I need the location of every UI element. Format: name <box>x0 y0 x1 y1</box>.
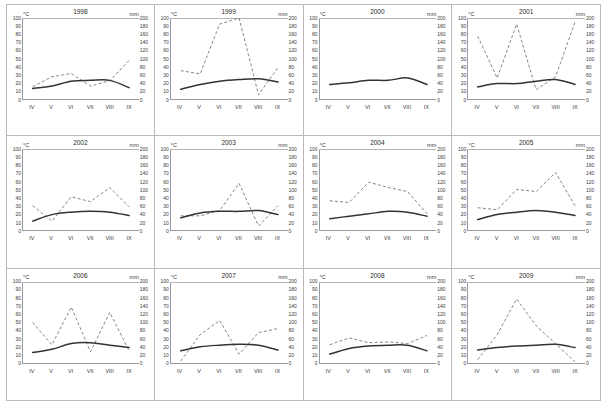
precipitation-tick: 200 <box>437 16 445 21</box>
precipitation-tick: 200 <box>140 279 148 284</box>
precipitation-axis: 200180160140120100806040200 <box>586 16 599 102</box>
month-tick-IX: IX <box>119 102 138 114</box>
plot-frame <box>319 149 437 231</box>
precipitation-tick: 120 <box>586 48 594 53</box>
temperature-tick: 50 <box>163 188 169 193</box>
panel-title-year: 2000 <box>304 7 452 16</box>
precipitation-tick: 200 <box>437 279 445 284</box>
precipitation-tick: 40 <box>437 81 443 86</box>
month-tick-VII: VII <box>229 102 249 114</box>
month-tick-V: V <box>189 102 209 114</box>
precipitation-series <box>478 299 575 362</box>
precipitation-tick: 180 <box>140 24 148 29</box>
climate-panel-2007: °Cmm200710090807060504030201002001801601… <box>155 269 304 401</box>
temperature-tick: 60 <box>312 180 318 185</box>
temperature-series <box>33 80 129 89</box>
precipitation-tick: 120 <box>437 180 445 185</box>
temperature-tick: 10 <box>461 221 467 226</box>
temperature-tick: 40 <box>312 65 318 70</box>
temperature-tick: 10 <box>15 221 21 226</box>
precipitation-axis: 200180160140120100806040200 <box>289 280 302 366</box>
temperature-tick: 30 <box>312 73 318 78</box>
plot-area: 1009080706050403020100200180160140120100… <box>452 16 600 135</box>
precipitation-tick: 60 <box>140 337 146 342</box>
month-tick-IV: IV <box>467 366 487 378</box>
temperature-tick: 30 <box>312 337 318 342</box>
precipitation-tick: 0 <box>289 361 292 366</box>
month-tick-VIII: VIII <box>397 102 417 114</box>
plot-area: 1009080706050403020100200180160140120100… <box>155 16 303 135</box>
precipitation-tick: 0 <box>289 229 292 234</box>
precipitation-series <box>329 183 426 215</box>
month-axis: IVVVIVIIVIIIIX <box>22 102 139 114</box>
temperature-tick: 60 <box>163 48 169 53</box>
precipitation-tick: 40 <box>437 212 443 217</box>
temperature-series <box>329 78 426 85</box>
month-tick-VIII: VIII <box>397 233 417 245</box>
month-tick-VI: VI <box>358 233 378 245</box>
precipitation-tick: 120 <box>289 180 297 185</box>
temperature-tick: 0 <box>18 361 21 366</box>
plot-area: 1009080706050403020100200180160140120100… <box>7 16 154 135</box>
precipitation-tick: 20 <box>289 89 295 94</box>
month-axis: IVVVIVIIVIIIIX <box>170 233 288 245</box>
temperature-series <box>329 212 426 219</box>
temperature-tick: 90 <box>163 287 169 292</box>
precipitation-tick: 40 <box>289 212 295 217</box>
precipitation-tick: 100 <box>289 320 297 325</box>
month-tick-VI: VI <box>507 233 527 245</box>
month-tick-VI: VI <box>358 366 378 378</box>
precipitation-tick: 80 <box>586 65 592 70</box>
temperature-tick: 70 <box>312 40 318 45</box>
climate-panel-2003: °Cmm200310090807060504030201002001801601… <box>155 136 304 268</box>
temperature-tick: 50 <box>15 57 21 62</box>
precipitation-tick: 20 <box>586 89 592 94</box>
precipitation-tick: 200 <box>586 147 594 152</box>
temperature-tick: 50 <box>163 320 169 325</box>
precipitation-series <box>33 307 129 352</box>
precipitation-tick: 100 <box>586 57 594 62</box>
month-tick-VI: VI <box>507 366 527 378</box>
series-canvas <box>171 18 288 99</box>
temperature-tick: 20 <box>15 212 21 217</box>
month-tick-V: V <box>487 233 507 245</box>
temperature-axis: 1009080706050403020100 <box>453 16 466 102</box>
series-canvas <box>23 18 139 99</box>
temperature-axis: 1009080706050403020100 <box>8 147 21 233</box>
temperature-axis: 1009080706050403020100 <box>156 280 169 366</box>
temperature-tick: 60 <box>461 312 467 317</box>
precipitation-tick: 80 <box>289 328 295 333</box>
precipitation-tick: 20 <box>586 353 592 358</box>
temperature-tick: 10 <box>163 89 169 94</box>
temperature-tick: 50 <box>163 57 169 62</box>
temperature-tick: 20 <box>15 345 21 350</box>
month-tick-IV: IV <box>22 233 41 245</box>
precipitation-tick: 0 <box>140 98 143 103</box>
climate-panel-2006: °Cmm200610090807060504030201002001801601… <box>6 269 155 401</box>
precipitation-tick: 180 <box>586 155 594 160</box>
precipitation-tick: 0 <box>437 361 440 366</box>
precipitation-tick: 0 <box>437 229 440 234</box>
month-tick-VI: VI <box>507 102 527 114</box>
precipitation-tick: 40 <box>586 81 592 86</box>
temperature-tick: 50 <box>461 57 467 62</box>
temperature-tick: 60 <box>461 48 467 53</box>
month-tick-V: V <box>189 366 209 378</box>
series-canvas <box>468 282 585 363</box>
month-tick-IV: IV <box>22 366 41 378</box>
month-tick-IV: IV <box>319 102 339 114</box>
temperature-tick: 0 <box>18 229 21 234</box>
precipitation-tick: 160 <box>437 163 445 168</box>
precipitation-tick: 120 <box>586 180 594 185</box>
month-tick-VII: VII <box>229 233 249 245</box>
precipitation-tick: 80 <box>586 328 592 333</box>
month-axis: IVVVIVIIVIIIIX <box>22 233 139 245</box>
climate-panel-1998: °Cmm199810090807060504030201002001801601… <box>6 4 155 136</box>
temperature-tick: 60 <box>312 48 318 53</box>
panel-title-year: 2005 <box>452 138 600 147</box>
precipitation-tick: 60 <box>140 73 146 78</box>
temperature-tick: 90 <box>312 155 318 160</box>
precipitation-tick: 0 <box>586 361 589 366</box>
precipitation-tick: 160 <box>289 163 297 168</box>
temperature-tick: 20 <box>15 81 21 86</box>
